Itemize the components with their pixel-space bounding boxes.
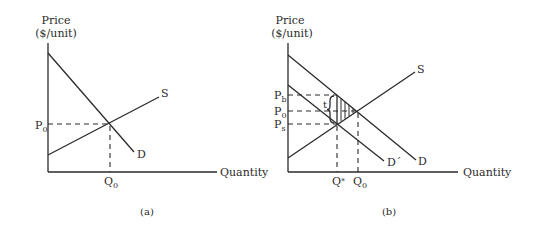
pb-label: Pb	[274, 89, 287, 104]
q0-label: Q0	[353, 175, 367, 190]
y-axis-label-unit: ($/unit)	[35, 27, 76, 40]
y-axis-label-price: Price	[42, 14, 71, 27]
p0-label: P0	[35, 119, 48, 134]
x-axis-label-quantity: Quantity	[220, 166, 269, 179]
shifted-demand-curve	[288, 85, 384, 161]
panel-b: Price ($/unit) Quantity D D´ S t	[271, 14, 512, 217]
supply-curve	[48, 97, 159, 155]
panel-a: Price ($/unit) Quantity D S P0 Q0 (a)	[35, 14, 269, 217]
tax-label: t	[323, 99, 327, 110]
supply-curve	[288, 72, 415, 158]
y-axis-label-price: Price	[276, 14, 305, 27]
x-axis-label-quantity: Quantity	[463, 166, 512, 179]
supply-label: S	[417, 63, 425, 76]
q0-label: Q0	[104, 175, 118, 190]
ps-label: Ps	[274, 118, 286, 133]
supply-label: S	[161, 87, 169, 100]
tax-brace-icon	[327, 96, 334, 123]
demand-label: D	[137, 148, 146, 161]
caption-b: (b)	[382, 206, 396, 217]
diagram-canvas: Price ($/unit) Quantity D S P0 Q0 (a) Pr…	[0, 0, 533, 230]
y-axis-label-unit: ($/unit)	[271, 27, 312, 40]
shifted-demand-label: D´	[387, 156, 401, 169]
caption-a: (a)	[140, 206, 154, 217]
demand-curve	[48, 53, 134, 152]
q-star-label: Q*	[332, 175, 345, 188]
demand-label: D	[418, 155, 427, 168]
